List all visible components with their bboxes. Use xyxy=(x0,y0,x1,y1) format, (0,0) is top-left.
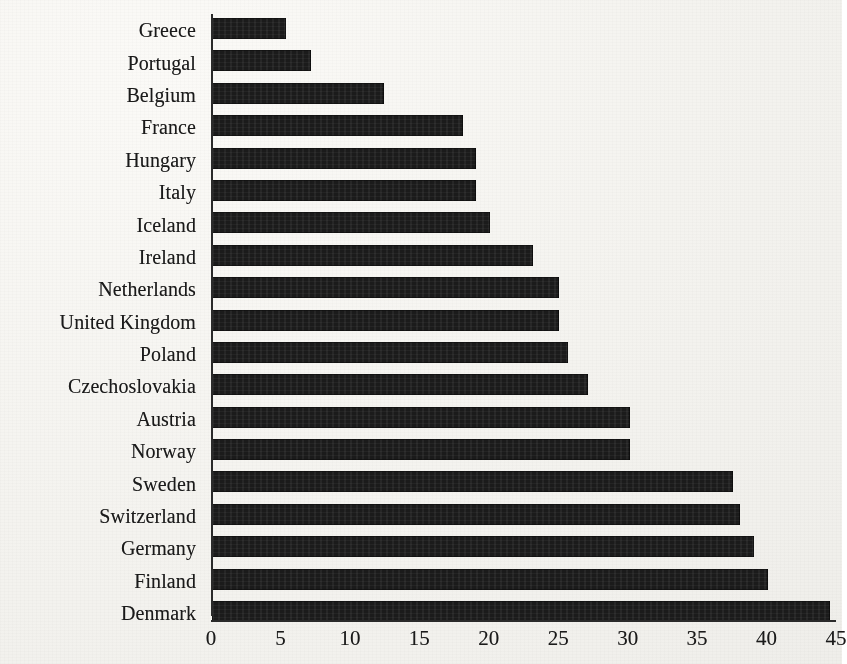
bar-track xyxy=(196,565,842,597)
category-label: Portugal xyxy=(0,53,196,73)
y-axis-spine xyxy=(211,14,213,616)
bar-track xyxy=(196,14,842,46)
bar xyxy=(212,374,588,395)
category-label: Finland xyxy=(0,571,196,591)
bar-track xyxy=(196,500,842,532)
x-tick-label: 15 xyxy=(409,628,430,649)
bar xyxy=(212,536,754,557)
bar-track xyxy=(196,403,842,435)
bar-track xyxy=(196,46,842,78)
bar-row: Finland xyxy=(0,565,842,597)
category-label: Sweden xyxy=(0,474,196,494)
bar-row: Ireland xyxy=(0,241,842,273)
bar-track xyxy=(196,176,842,208)
x-tick-label: 5 xyxy=(275,628,286,649)
category-label: Greece xyxy=(0,20,196,40)
category-label: Ireland xyxy=(0,247,196,267)
x-axis-line xyxy=(211,620,836,622)
bar-row: Denmark xyxy=(0,597,842,629)
bar xyxy=(212,115,463,136)
x-tick-label: 45 xyxy=(826,628,847,649)
bar-row: Greece xyxy=(0,14,842,46)
bar xyxy=(212,18,286,39)
bar xyxy=(212,310,559,331)
category-label: Germany xyxy=(0,538,196,558)
x-tick-label: 35 xyxy=(687,628,708,649)
x-tick-label: 0 xyxy=(206,628,217,649)
bar-row: Portugal xyxy=(0,46,842,78)
bar-row: Czechoslovakia xyxy=(0,370,842,402)
bar-rows: GreecePortugalBelgiumFranceHungaryItalyI… xyxy=(0,14,842,629)
bar-row: Norway xyxy=(0,435,842,467)
bar-track xyxy=(196,306,842,338)
category-label: France xyxy=(0,117,196,137)
bar xyxy=(212,277,559,298)
bar-track xyxy=(196,370,842,402)
bar-row: Italy xyxy=(0,176,842,208)
bar-row: Austria xyxy=(0,403,842,435)
bar-track xyxy=(196,467,842,499)
x-tick-label: 30 xyxy=(617,628,638,649)
category-label: Czechoslovakia xyxy=(0,376,196,396)
bar xyxy=(212,342,568,363)
category-label: Iceland xyxy=(0,215,196,235)
bar xyxy=(212,83,384,104)
x-tick-label: 10 xyxy=(339,628,360,649)
bar xyxy=(212,245,533,266)
bar xyxy=(212,439,630,460)
bar-track xyxy=(196,273,842,305)
category-label: Norway xyxy=(0,441,196,461)
category-label: Netherlands xyxy=(0,279,196,299)
bar xyxy=(212,601,830,622)
bar-track xyxy=(196,435,842,467)
bar-row: Netherlands xyxy=(0,273,842,305)
bar-row: United Kingdom xyxy=(0,306,842,338)
bar-track xyxy=(196,241,842,273)
bar-track xyxy=(196,79,842,111)
bar-row: France xyxy=(0,111,842,143)
category-label: Belgium xyxy=(0,85,196,105)
bar xyxy=(212,407,630,428)
category-label: Hungary xyxy=(0,150,196,170)
bar-track xyxy=(196,111,842,143)
category-label: United Kingdom xyxy=(0,312,196,332)
bar xyxy=(212,569,768,590)
bar xyxy=(212,180,476,201)
bar-row: Belgium xyxy=(0,79,842,111)
bar-track xyxy=(196,532,842,564)
x-tick-label: 25 xyxy=(548,628,569,649)
bar-row: Switzerland xyxy=(0,500,842,532)
bar-row: Germany xyxy=(0,532,842,564)
bar xyxy=(212,212,490,233)
bar-row: Sweden xyxy=(0,467,842,499)
chart-title xyxy=(0,0,842,10)
x-axis-tick-labels: 051015202530354045 xyxy=(0,628,842,662)
bar-track xyxy=(196,144,842,176)
bar-track xyxy=(196,208,842,240)
bar-row: Poland xyxy=(0,338,842,370)
bar xyxy=(212,148,476,169)
category-label: Poland xyxy=(0,344,196,364)
bar xyxy=(212,50,311,71)
x-tick-label: 40 xyxy=(756,628,777,649)
category-label: Denmark xyxy=(0,603,196,623)
bar-track xyxy=(196,338,842,370)
bar xyxy=(212,504,740,525)
x-tick-label: 20 xyxy=(478,628,499,649)
bar xyxy=(212,471,733,492)
bar-track xyxy=(196,597,842,629)
bar-row: Hungary xyxy=(0,144,842,176)
category-label: Italy xyxy=(0,182,196,202)
category-label: Austria xyxy=(0,409,196,429)
bar-row: Iceland xyxy=(0,208,842,240)
category-label: Switzerland xyxy=(0,506,196,526)
